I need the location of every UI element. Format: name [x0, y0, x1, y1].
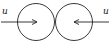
collision-diagram: u u: [0, 0, 110, 44]
right-velocity-label: u: [103, 6, 109, 16]
left-velocity-label: u: [2, 6, 8, 16]
